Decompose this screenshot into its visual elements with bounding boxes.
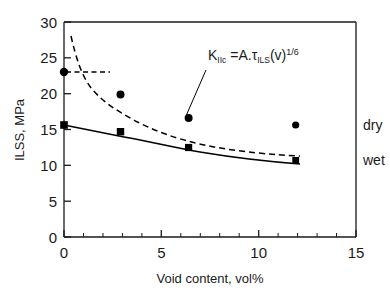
x-tick-label: 10 [250, 244, 267, 261]
data-point [117, 128, 124, 135]
data-point [60, 121, 68, 129]
y-tick-label: 0 [49, 229, 57, 246]
wet-series-markers [60, 121, 299, 164]
y-tick-label: 25 [40, 49, 57, 66]
ilss-void-content-chart: 0 5 10 15 20 25 30 0 5 10 15 Void conten… [0, 0, 390, 296]
data-point [60, 68, 68, 76]
y-tick-label: 30 [40, 14, 57, 31]
y-axis-title: ILSS, MPa [12, 98, 27, 161]
equation-operator: =A. [226, 47, 251, 63]
data-point [292, 121, 299, 128]
x-axis-tick-labels: 0 5 10 15 [60, 244, 365, 261]
data-point [292, 157, 299, 164]
data-point [117, 91, 125, 99]
equation-tau-subscript: ILS [257, 55, 270, 65]
wet-fit-curve [64, 125, 300, 164]
x-axis-major-ticks [64, 230, 356, 237]
annotation-leader-line [186, 70, 206, 116]
data-point [185, 144, 192, 151]
x-tick-label: 15 [348, 244, 365, 261]
series-label-wet: wet [362, 152, 385, 168]
dry-series-markers [60, 68, 300, 129]
y-axis-tick-labels: 0 5 10 15 20 25 30 [40, 14, 57, 246]
x-tick-label: 0 [60, 244, 68, 261]
equation-exponent: 1/6 [286, 47, 299, 57]
y-tick-label: 5 [49, 193, 57, 210]
dry-fit-curve [71, 36, 300, 156]
x-tick-label: 5 [157, 244, 165, 261]
data-point [185, 114, 193, 122]
series-label-dry: dry [363, 117, 382, 133]
y-tick-label: 20 [40, 85, 57, 102]
y-tick-label: 15 [40, 121, 57, 138]
x-axis-title: Void content, vol% [157, 271, 264, 286]
fit-equation-annotation: KIIc =A.τILS(v)1/6 [208, 47, 299, 65]
y-tick-label: 10 [40, 157, 57, 174]
equation-variable: (v) [270, 47, 286, 63]
chart-figure: 0 5 10 15 20 25 30 0 5 10 15 Void conten… [0, 0, 390, 296]
y-axis-ticks [64, 22, 71, 237]
